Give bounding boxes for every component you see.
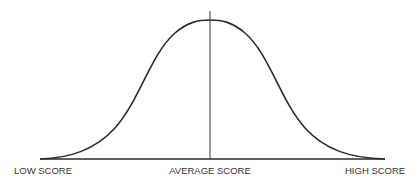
low-score-label: LOW SCORE	[14, 165, 72, 176]
high-score-label: HIGH SCORE	[345, 165, 405, 176]
bell-curve	[40, 20, 385, 159]
average-score-label: AVERAGE SCORE	[169, 165, 251, 176]
